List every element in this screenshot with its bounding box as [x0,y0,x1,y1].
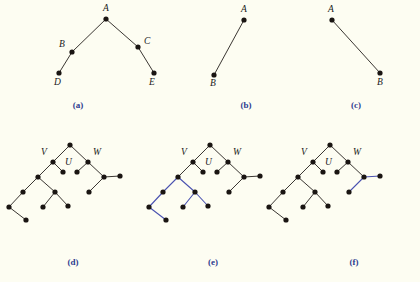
graph-node [361,174,366,179]
vertex-label-a: A [241,5,247,15]
graph-node [20,189,25,194]
graph-node [346,189,351,194]
vertex-label-v: V [41,148,47,158]
graph-edge-highlighted [178,177,195,192]
graph-node [320,169,325,174]
graph-node [67,142,72,147]
graph-node [334,169,339,174]
graph-node [35,174,40,179]
panel-caption-f: (f) [339,257,369,267]
vertex-label-d: D [54,78,61,88]
graph-node [74,169,79,174]
graph-edge [77,162,88,172]
graph-node [85,159,90,164]
graph-edge [23,177,38,192]
graph-node [151,70,156,75]
graph-edge [104,176,120,177]
graph-edge [70,145,88,162]
graph-node [226,189,231,194]
graph-edge [193,162,203,172]
panel-caption-d: (d) [58,257,88,267]
graph-edge-highlighted [349,177,364,192]
graph-edge [313,162,323,172]
graph-node [180,204,185,209]
graph-node [207,142,212,147]
graph-node [52,189,57,194]
graph-edge [298,177,315,192]
graph-edge-highlighted [149,192,163,207]
graph-edge [106,19,138,47]
panel-b [211,17,246,77]
vertex-label-b: B [377,78,383,88]
graph-node [377,70,382,75]
vertex-label-w: W [233,148,241,158]
vertex-label-w: W [353,148,361,158]
graph-edge [283,177,298,192]
graph-edge [9,192,23,207]
graph-edge [138,47,154,73]
graph-node [175,174,180,179]
panel-c [329,17,382,75]
graph-node [192,189,197,194]
panel-caption-c: (c) [341,100,371,110]
vertex-label-v: V [181,148,187,158]
graph-node [101,174,106,179]
graph-edge [269,207,286,220]
graph-edge [315,192,328,206]
graph-edge-highlighted [149,207,166,220]
graph-node [214,169,219,174]
graph-node [300,204,305,209]
graph-node [241,174,246,179]
graph-node [225,159,230,164]
vertex-label-a: A [103,4,109,14]
graph-edge-highlighted [183,192,195,207]
graph-edge [55,192,68,206]
graph-node [160,189,165,194]
graph-edge [178,162,193,177]
graph-node [40,204,45,209]
graph-edge [9,207,26,220]
graph-node [50,159,55,164]
vertex-label-v: V [301,148,307,158]
graph-edge [332,20,380,73]
graph-edge [210,145,228,162]
graph-edge [43,192,55,207]
graph-node [327,142,332,147]
vertex-label-b: B [59,40,65,50]
panel-caption-e: (e) [198,257,228,267]
graph-edge-highlighted [364,176,380,177]
graph-node [329,17,334,22]
graph-node [280,189,285,194]
graph-edge [228,162,244,177]
vertex-label-u: U [65,158,72,168]
graph-node [345,159,350,164]
graph-node [56,70,61,75]
graph-edge [217,162,228,172]
vertex-label-e: E [149,78,155,88]
graph-node [283,217,288,222]
graph-edge [348,162,364,177]
vertex-label-c: C [144,37,150,47]
graph-edge [330,145,348,162]
graph-edge [59,52,72,73]
graph-edge [53,162,63,172]
panel-caption-b: (b) [231,100,261,110]
graph-node [257,173,262,178]
panel-caption-a: (a) [63,100,93,110]
graph-edge [229,177,244,192]
graph-node [23,217,28,222]
graph-node [241,17,246,22]
graph-node [325,203,330,208]
graph-edge [88,162,104,177]
graph-node [69,49,74,54]
graph-edge [38,162,53,177]
vertex-label-u: U [325,158,332,168]
graph-edge [38,177,55,192]
graph-node [117,173,122,178]
graph-edge [269,192,283,207]
graph-node [310,159,315,164]
vertex-label-a: A [328,5,334,15]
panel-d [6,142,122,222]
graph-edge [72,19,106,52]
graph-node [377,173,382,178]
